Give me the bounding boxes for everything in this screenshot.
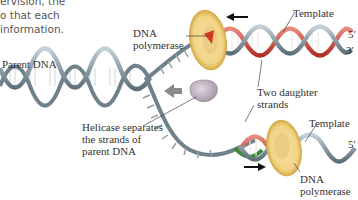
label-template-bottom: Template bbox=[309, 117, 350, 129]
top-polymerase-arrow bbox=[226, 13, 248, 21]
dna-replication-diagram: ervision, the o that each information. bbox=[0, 0, 358, 200]
label-line: DNA bbox=[300, 173, 351, 185]
label-helicase: Helicase separates the strands of parent… bbox=[82, 121, 163, 157]
label-line: polymerase bbox=[300, 185, 351, 197]
label-dna-polymerase-top: DNA polymerase bbox=[133, 27, 184, 51]
helicase bbox=[190, 80, 217, 102]
bottom-polymerase-arrow bbox=[244, 163, 266, 171]
label-line: polymerase bbox=[133, 39, 184, 51]
label-line: Helicase separates bbox=[82, 121, 163, 133]
label-line: strands bbox=[257, 98, 318, 110]
label-line: parent DNA bbox=[82, 145, 163, 157]
label-line: the strands of bbox=[82, 133, 163, 145]
helicase-direction-arrow bbox=[164, 84, 182, 98]
label-3prime-top: 3′ bbox=[346, 44, 354, 56]
dna-polymerase-top bbox=[185, 7, 231, 72]
label-5prime-bottom: 5′ bbox=[348, 138, 356, 150]
label-line: DNA bbox=[133, 27, 184, 39]
dna-polymerase-bottom bbox=[262, 117, 305, 178]
label-dna-polymerase-bottom: DNA polymerase bbox=[300, 173, 351, 197]
label-line: Two daughter bbox=[257, 86, 318, 98]
label-template-top: Template bbox=[293, 7, 334, 19]
label-5prime-top: 5′ bbox=[348, 28, 356, 40]
label-two-daughter-strands: Two daughter strands bbox=[257, 86, 318, 110]
label-parent-dna: Parent DNA bbox=[2, 58, 57, 70]
